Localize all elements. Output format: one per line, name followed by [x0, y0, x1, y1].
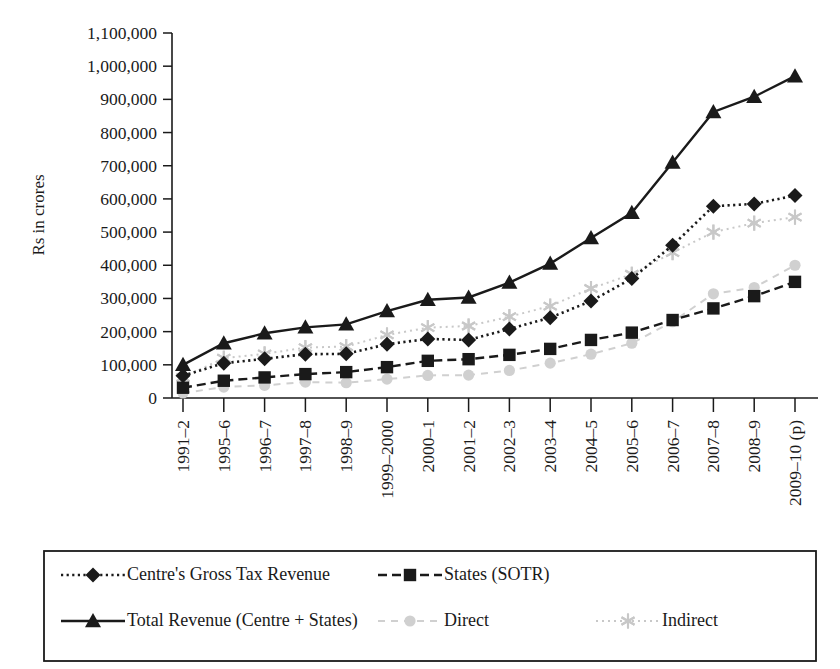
y-tick-label: 700,000	[100, 156, 157, 176]
series-total-revenue-centre-states	[175, 68, 803, 371]
y-axis-label: Rs in crores	[29, 174, 48, 255]
square-data-marker	[258, 371, 270, 383]
square-data-marker	[585, 334, 597, 346]
square-data-marker	[177, 382, 189, 394]
x-tick-label: 2007–8	[703, 420, 723, 473]
y-tick-label: 200,000	[100, 322, 157, 342]
asterisk-data-marker	[748, 216, 761, 231]
legend-label: Centre's Gross Tax Revenue	[127, 564, 330, 584]
x-tick-label: 2003–4	[540, 420, 560, 473]
triangle-data-marker	[787, 68, 803, 82]
triangle-data-marker	[583, 230, 599, 244]
legend-item-states-sotr[interactable]: States (SOTR)	[378, 564, 550, 585]
triangle-data-marker	[746, 89, 762, 103]
series-path	[183, 282, 795, 388]
square-data-marker	[462, 353, 474, 365]
series-path	[183, 265, 795, 393]
diamond-data-marker	[502, 321, 517, 336]
square-data-marker	[503, 349, 515, 361]
circle-legend-marker-icon	[404, 615, 415, 626]
circle-data-marker	[504, 365, 515, 376]
square-data-marker	[789, 276, 801, 288]
x-tick-label: 1996–7	[255, 420, 275, 473]
triangle-data-marker	[501, 275, 517, 289]
tax-revenue-line-chart: Rs in crores 0100,000200,000300,000400,0…	[0, 0, 840, 669]
x-tick-label: 2001–2	[459, 420, 479, 473]
legend-item-total-revenue-centre-states[interactable]: Total Revenue (Centre + States)	[61, 610, 358, 631]
asterisk-data-marker	[789, 210, 802, 225]
x-tick-label: 2000–1	[418, 420, 438, 473]
square-data-marker	[666, 314, 678, 326]
diamond-data-marker	[461, 332, 476, 347]
diamond-legend-marker-icon	[86, 568, 101, 583]
series-states-sotr	[177, 276, 801, 394]
square-data-marker	[218, 375, 230, 387]
square-legend-marker-icon	[404, 569, 416, 581]
circle-data-marker	[381, 373, 392, 384]
legend-label: Total Revenue (Centre + States)	[127, 610, 358, 631]
square-data-marker	[544, 343, 556, 355]
x-tick-label: 1995–6	[214, 420, 234, 473]
diamond-data-marker	[788, 188, 803, 203]
diamond-data-marker	[747, 196, 762, 211]
diamond-data-marker	[543, 310, 558, 325]
circle-data-marker	[585, 349, 596, 360]
circle-data-marker	[341, 377, 352, 388]
square-data-marker	[707, 302, 719, 314]
square-data-marker	[299, 368, 311, 380]
series-path	[183, 217, 795, 377]
chart-canvas: Rs in crores 0100,000200,000300,000400,0…	[0, 0, 840, 669]
x-tick-label: 2008–9	[744, 420, 764, 473]
circle-data-marker	[708, 288, 719, 299]
square-data-marker	[748, 290, 760, 302]
y-tick-label: 1,100,000	[87, 23, 157, 43]
x-tick-label: 2005–6	[622, 420, 642, 473]
diamond-data-marker	[216, 356, 231, 371]
y-tick-label: 1,000,000	[87, 56, 157, 76]
y-tick-label: 500,000	[100, 222, 157, 242]
square-data-marker	[381, 361, 393, 373]
series-path	[183, 196, 795, 376]
y-tick-label: 0	[148, 388, 157, 408]
asterisk-data-marker	[707, 225, 720, 240]
x-tick-label: 1999–2000	[377, 420, 397, 499]
y-tick-label: 800,000	[100, 123, 157, 143]
triangle-data-marker	[542, 256, 558, 270]
legend-entries: Centre's Gross Tax RevenueStates (SOTR)T…	[61, 564, 718, 631]
x-tick-label: 1997–8	[295, 420, 315, 473]
triangle-data-marker	[175, 357, 191, 371]
x-tick-label: 1991–2	[173, 420, 193, 473]
square-data-marker	[626, 326, 638, 338]
data-series-group	[175, 68, 803, 398]
legend-label: States (SOTR)	[444, 564, 550, 585]
y-tick-label: 600,000	[100, 189, 157, 209]
y-tick-label: 300,000	[100, 288, 157, 308]
legend-item-centre-s-gross-tax-revenue[interactable]: Centre's Gross Tax Revenue	[61, 564, 330, 584]
circle-data-marker	[463, 370, 474, 381]
y-tick-label: 100,000	[100, 355, 157, 375]
x-tick-label: 2009–10 (p)	[785, 420, 805, 506]
x-tick-label: 2004–5	[581, 420, 601, 473]
x-tick-label: 2006–7	[663, 420, 683, 473]
circle-data-marker	[422, 370, 433, 381]
y-axis-ticks: 0100,000200,000300,000400,000500,000600,…	[87, 23, 172, 408]
y-tick-label: 400,000	[100, 255, 157, 275]
legend-label: Indirect	[662, 610, 718, 630]
square-data-marker	[340, 366, 352, 378]
y-tick-label: 900,000	[100, 89, 157, 109]
legend-item-direct[interactable]: Direct	[378, 610, 489, 630]
circle-data-marker	[626, 338, 637, 349]
legend-label: Direct	[444, 610, 489, 630]
circle-data-marker	[545, 358, 556, 369]
y-axis-title: Rs in crores	[29, 174, 48, 255]
x-axis-ticks: 1991–21995–61996–71997–81998–91999–20002…	[173, 398, 805, 506]
square-data-marker	[422, 355, 434, 367]
diamond-data-marker	[584, 294, 599, 309]
circle-data-marker	[789, 260, 800, 271]
legend-item-indirect[interactable]: Indirect	[596, 610, 718, 630]
x-tick-label: 2002–3	[499, 420, 519, 473]
x-tick-label: 1998–9	[336, 420, 356, 473]
diamond-data-marker	[420, 331, 435, 346]
diamond-data-marker	[298, 347, 313, 362]
